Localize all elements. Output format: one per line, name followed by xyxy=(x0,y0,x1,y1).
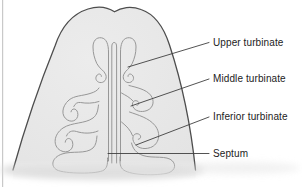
label-middle-turbinate: Middle turbinate xyxy=(213,73,286,84)
label-upper-turbinate: Upper turbinate xyxy=(213,37,284,48)
label-inferior-turbinate: Inferior turbinate xyxy=(213,111,288,122)
page-left-border xyxy=(2,0,3,187)
label-septum: Septum xyxy=(213,148,248,159)
figure-nasal-cavity-diagram: Upper turbinate Middle turbinate Inferio… xyxy=(0,0,302,187)
